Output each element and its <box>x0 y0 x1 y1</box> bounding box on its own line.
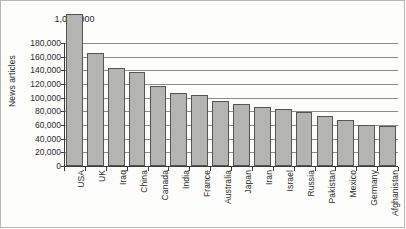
y-tick-mark <box>61 43 65 44</box>
y-tick-label: 180,000 <box>17 38 61 48</box>
bar-iran <box>254 107 271 166</box>
x-tick-label-israel: Israel <box>285 170 295 191</box>
x-tick-label-germany: Germany <box>369 170 379 206</box>
x-tick-label-afghanistan: Afghanistan <box>390 170 400 216</box>
y-tick-mark <box>61 57 65 58</box>
bar-pakistan <box>317 116 334 166</box>
y-tick-label: 160,000 <box>17 52 61 62</box>
bar-germany <box>358 125 375 166</box>
y-axis-title: News articles <box>7 36 17 126</box>
bar-uk <box>87 53 104 166</box>
bar-australia <box>212 101 229 166</box>
y-tick-label: 100,000 <box>17 93 61 103</box>
x-tick-label-japan: Japan <box>243 170 253 194</box>
bar-japan <box>233 104 250 166</box>
y-tick-label: 40,000 <box>17 134 61 144</box>
plot-area <box>64 43 398 166</box>
x-tick-label-mexico: Mexico <box>348 170 358 198</box>
x-tick-label-pakistan: Pakistan <box>327 170 337 203</box>
x-tick-label-iran: Iran <box>264 170 274 185</box>
bar-mexico <box>337 120 354 166</box>
bar-china <box>129 72 146 166</box>
bar-france <box>191 95 208 166</box>
bar-usa <box>66 14 83 166</box>
x-tick-label-australia: Australia <box>223 170 233 204</box>
y-axis-line <box>64 43 65 167</box>
y-tick-label: 140,000 <box>17 65 61 75</box>
y-axis-tick-labels: 180,000160,000140,000120,000100,00080,00… <box>17 38 61 170</box>
bar-iraq <box>108 68 125 166</box>
bar-chart: News articles 180,000160,000140,000120,0… <box>0 0 406 229</box>
x-tick-label-india: India <box>181 170 191 189</box>
y-tick-mark <box>61 84 65 85</box>
bar-india <box>170 93 187 166</box>
x-tick-label-france: France <box>202 170 212 197</box>
y-tick-label: 120,000 <box>17 79 61 89</box>
bar-israel <box>275 109 292 166</box>
x-tick-label-china: China <box>139 170 149 193</box>
bar-canada <box>150 86 167 166</box>
y-tick-mark <box>61 125 65 126</box>
y-tick-label: 0 <box>17 161 61 171</box>
y-tick-mark <box>61 70 65 71</box>
y-tick-label: 20,000 <box>17 147 61 157</box>
x-tick-label-usa: USA <box>76 170 86 188</box>
x-tick-label-russia: Russia <box>306 170 316 197</box>
gridline <box>64 43 398 44</box>
y-tick-mark <box>61 111 65 112</box>
bar-russia <box>296 112 313 166</box>
x-tick-label-canada: Canada <box>160 170 170 200</box>
x-tick-label-uk: UK <box>97 170 107 182</box>
y-tick-mark <box>61 152 65 153</box>
y-tick-label: 80,000 <box>17 106 61 116</box>
y-tick-mark <box>61 98 65 99</box>
x-tick-label-iraq: Iraq <box>118 170 128 185</box>
bar-afghanistan <box>379 126 396 166</box>
y-tick-label: 60,000 <box>17 120 61 130</box>
gridline <box>64 57 398 58</box>
y-tick-mark <box>61 139 65 140</box>
x-axis-tick-labels: USAUKIraqChinaCanadaIndiaFranceAustralia… <box>64 170 398 228</box>
